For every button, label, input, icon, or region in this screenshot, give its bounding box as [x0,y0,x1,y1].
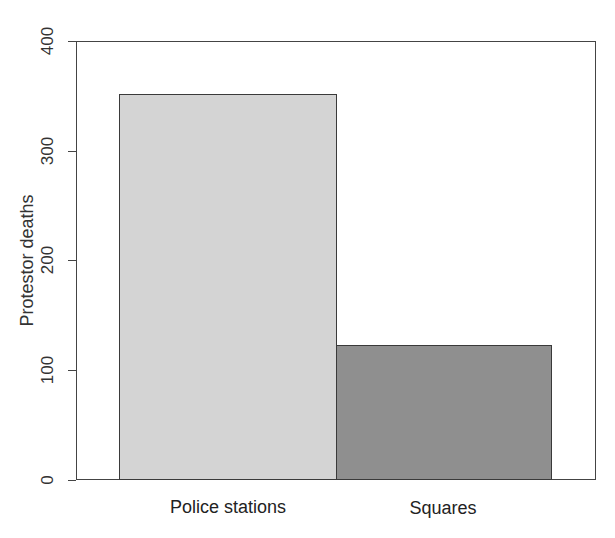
y-tick-100 [68,370,76,371]
y-axis-title: Protestor deaths [17,151,38,371]
bar-police-stations [119,94,337,480]
y-tick-label-0: 0 [38,455,58,505]
y-tick-label-400: 400 [38,16,58,66]
x-tick-label-police-stations: Police stations [118,497,338,518]
y-tick-label-100: 100 [38,345,58,395]
y-tick-0 [68,480,76,481]
y-tick-200 [68,260,76,261]
y-tick-label-200: 200 [38,235,58,285]
x-tick-label-squares: Squares [333,498,553,519]
y-tick-label-300: 300 [38,126,58,176]
bar-squares [336,345,552,480]
y-tick-300 [68,151,76,152]
y-tick-400 [68,41,76,42]
